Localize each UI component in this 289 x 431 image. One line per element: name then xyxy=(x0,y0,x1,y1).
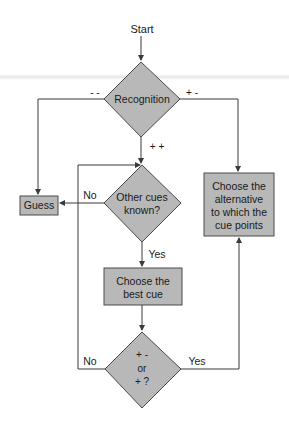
edge-label-check-yes: Yes xyxy=(188,355,205,367)
choose-alternative-line1: Choose the xyxy=(212,180,266,192)
edge-label-plus-plus: + + xyxy=(150,141,165,152)
other-cues-label-line2: known? xyxy=(124,204,160,216)
edge-label-check-no: No xyxy=(83,355,97,367)
guess-label: Guess xyxy=(24,199,54,211)
edge-label-other-no: No xyxy=(83,189,97,201)
choose-alternative-line4: cue points xyxy=(215,219,263,231)
choose-alternative-line2: alternative xyxy=(215,193,264,205)
start-label: Start xyxy=(130,23,153,35)
edge-label-minus-minus: - - xyxy=(90,87,99,98)
edge-recognition-to-alternative xyxy=(180,99,238,171)
choose-alternative-line3: to which the xyxy=(211,206,267,218)
check-label-line2: or xyxy=(138,363,148,374)
flowchart: Start Recognition - - + - + + Guess Othe… xyxy=(0,0,289,431)
edge-recognition-to-guess xyxy=(38,99,104,194)
choose-best-cue-line2: best cue xyxy=(123,288,163,300)
check-label-line3: + ? xyxy=(135,376,150,387)
recognition-label: Recognition xyxy=(114,93,170,105)
edge-label-plus-minus: + - xyxy=(186,87,198,98)
other-cues-label-line1: Other cues xyxy=(116,191,167,203)
choose-best-cue-line1: Choose the xyxy=(116,275,170,287)
edge-check-to-alternative xyxy=(181,238,239,369)
check-label-line1: + - xyxy=(136,349,148,360)
edge-label-other-yes: Yes xyxy=(148,248,165,260)
